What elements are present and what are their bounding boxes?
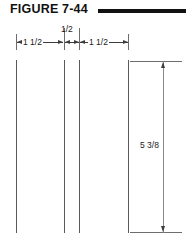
arrow-down-icon: [161, 226, 165, 232]
vertical-dimension-label: 5 3/8: [139, 139, 160, 151]
vertical-extension-line-top: [130, 61, 182, 62]
vertical-dimension-line: [163, 61, 164, 233]
vertical-extension-line-bottom: [130, 232, 182, 233]
arrow-up-icon: [161, 62, 165, 68]
vertical-dimension-group: 5 3/8: [0, 0, 192, 244]
